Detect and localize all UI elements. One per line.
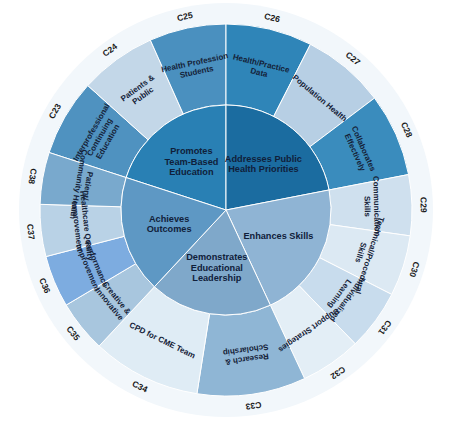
- code-c37: C37: [25, 223, 37, 240]
- inner-label-text: Education: [169, 167, 214, 177]
- inner-ring-group: [121, 105, 331, 315]
- inner-label-text: Team-Based: [164, 157, 218, 167]
- inner-label-text: Leadership: [192, 273, 241, 283]
- wheel-svg: InterprofessionalContinuingEducationPati…: [0, 0, 452, 431]
- inner-label-text: Promotes: [170, 146, 212, 156]
- inner-label-text: Demonstrates: [186, 252, 247, 262]
- inner-label-text: Enhances Skills: [243, 231, 313, 241]
- inner-label-text: Educational: [191, 263, 243, 273]
- code-label-text: C37: [25, 223, 37, 240]
- inner-label-text: Outcomes: [147, 224, 192, 234]
- inner-label-text: Addresses Public: [225, 154, 302, 164]
- sunburst-chart: InterprofessionalContinuingEducationPati…: [0, 0, 452, 431]
- inner-label-text: Achieves: [149, 214, 189, 224]
- inner-label-text: Health Priorities: [228, 164, 298, 174]
- code-label-text: C29: [418, 197, 428, 213]
- outer-label-text: Skills: [362, 196, 372, 218]
- code-c29: C29: [418, 197, 428, 213]
